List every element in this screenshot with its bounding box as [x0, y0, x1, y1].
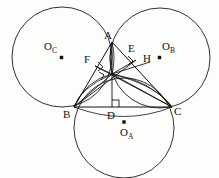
geometry-canvas — [0, 0, 219, 178]
dot-center-c — [60, 56, 63, 59]
label-orthocenter-h: H — [143, 53, 151, 64]
label-foot-d: D — [107, 110, 115, 121]
right-angle-mark-d — [112, 100, 119, 107]
geometry-figure: A B C D E F H OA OB OC — [0, 0, 219, 178]
dot-center-b — [158, 56, 161, 59]
triangle-group — [74, 42, 172, 107]
label-vertex-a: A — [104, 30, 112, 41]
label-center-a: OA — [120, 127, 133, 141]
label-center-b-sub: B — [170, 46, 175, 55]
label-foot-e: E — [128, 43, 135, 54]
segment-hb — [74, 74, 112, 107]
label-center-b: OB — [162, 41, 175, 55]
dot-center-a — [122, 120, 125, 123]
label-center-c-sub: C — [52, 46, 57, 55]
segment-hc — [112, 74, 172, 107]
segment-he — [112, 60, 136, 74]
label-foot-f: F — [84, 54, 90, 65]
altitudes-group — [74, 42, 172, 107]
segment-hf — [95, 66, 112, 74]
label-center-c-main: O — [44, 40, 52, 52]
label-vertex-b: B — [63, 109, 70, 120]
label-center-a-main: O — [120, 126, 128, 138]
label-center-c: OC — [44, 41, 57, 55]
label-vertex-c: C — [174, 106, 181, 117]
orthocenter-segments-group — [74, 60, 172, 107]
label-center-a-sub: A — [128, 132, 133, 141]
altitude-be — [74, 60, 136, 107]
arc-b-c-bulge — [74, 107, 172, 117]
label-center-b-main: O — [162, 40, 170, 52]
